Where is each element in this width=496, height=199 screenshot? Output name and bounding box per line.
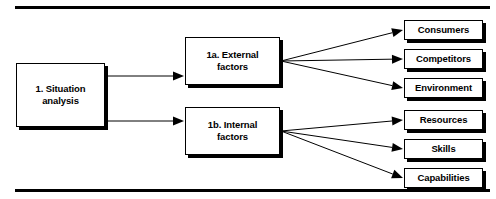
node-competitors[interactable]: Competitors: [404, 49, 483, 69]
edge-external-to-consumers-arrowhead-icon: [391, 28, 403, 37]
node-external-factors[interactable]: 1a. Externalfactors: [185, 37, 280, 85]
node-environment[interactable]: Environment: [404, 78, 483, 98]
node-label-external-factors: 1a. Externalfactors: [206, 49, 258, 73]
edge-internal-to-skills: [281, 131, 392, 147]
edge-situation-to-external-arrowhead-icon: [173, 72, 184, 81]
top-rule: [15, 6, 490, 9]
bottom-rule: [15, 189, 490, 192]
edge-external-to-competitors-arrowhead-icon: [392, 55, 403, 64]
edge-external-to-environment-arrowhead-icon: [391, 81, 403, 90]
diagram-canvas: 1. Situationanalysis1a. Externalfactors1…: [0, 0, 496, 199]
node-capabilities[interactable]: Capabilities: [404, 168, 483, 188]
edge-situation-to-internal-arrowhead-icon: [173, 117, 184, 126]
edge-internal-to-capabilities: [281, 131, 393, 174]
edge-external-to-consumers: [281, 33, 392, 61]
edge-internal-to-resources: [281, 121, 392, 131]
node-label-internal-factors: 1b. Internalfactors: [208, 119, 257, 143]
node-label-environment: Environment: [415, 82, 472, 94]
node-situation-analysis[interactable]: 1. Situationanalysis: [16, 63, 105, 127]
node-consumers[interactable]: Consumers: [404, 20, 483, 40]
node-internal-factors[interactable]: 1b. Internalfactors: [185, 107, 280, 155]
node-label-skills: Skills: [431, 143, 455, 155]
node-label-situation-analysis: 1. Situationanalysis: [36, 83, 86, 107]
edge-external-to-environment: [281, 61, 392, 86]
node-label-competitors: Competitors: [416, 53, 471, 65]
edge-external-to-competitors: [281, 59, 392, 61]
edge-internal-to-resources-arrowhead-icon: [392, 117, 403, 126]
node-label-consumers: Consumers: [418, 24, 469, 36]
node-resources[interactable]: Resources: [404, 110, 483, 130]
edge-internal-to-skills-arrowhead-icon: [391, 143, 403, 152]
node-label-resources: Resources: [420, 114, 468, 126]
edge-internal-to-capabilities-arrowhead-icon: [391, 170, 403, 178]
node-label-capabilities: Capabilities: [417, 172, 469, 184]
node-skills[interactable]: Skills: [404, 139, 483, 159]
